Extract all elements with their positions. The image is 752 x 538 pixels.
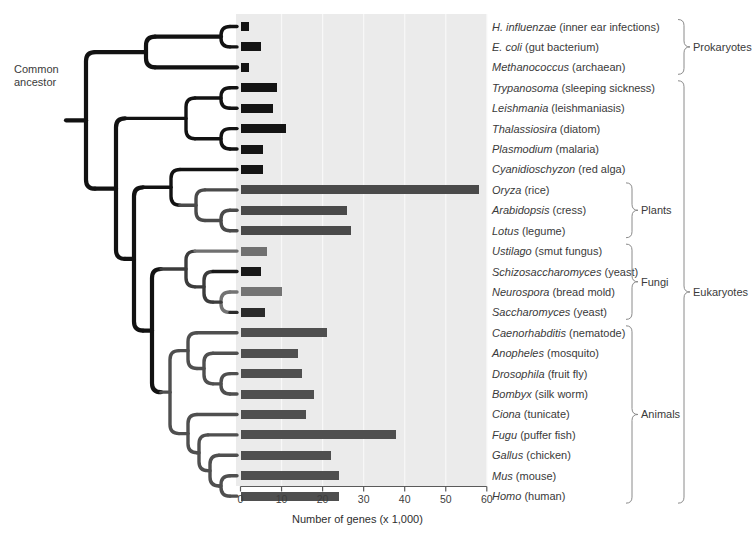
group-animals-label: Animals [641, 408, 680, 420]
group-fungi-label: Fungi [641, 276, 669, 288]
group-eukaryotes-label: Eukaryotes [693, 286, 748, 298]
group-prokaryotes-bracket [678, 20, 690, 75]
group-animals-bracket [626, 326, 638, 503]
group-eukaryotes-bracket [678, 81, 690, 503]
group-plants-bracket [626, 183, 638, 238]
group-prokaryotes-label: Prokaryotes [693, 41, 752, 53]
group-plants-label: Plants [641, 204, 672, 216]
group-fungi-bracket [626, 244, 638, 319]
